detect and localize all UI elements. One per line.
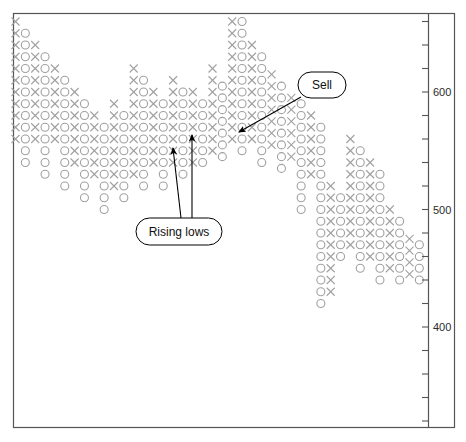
chart-canvas: 600500400 Rising lowsSell bbox=[0, 0, 466, 442]
annotation-callout-rising-lows[interactable]: Rising lows bbox=[136, 218, 222, 245]
annotation-callout-sell[interactable]: Sell bbox=[298, 72, 346, 98]
point-and-figure-chart: 600500400 Rising lowsSell bbox=[0, 0, 466, 442]
y-axis-label: 500 bbox=[433, 204, 451, 216]
callout-label: Sell bbox=[312, 78, 332, 92]
callout-label: Rising lows bbox=[149, 225, 210, 239]
y-axis-label: 600 bbox=[433, 86, 451, 98]
y-axis-label: 400 bbox=[433, 321, 451, 333]
